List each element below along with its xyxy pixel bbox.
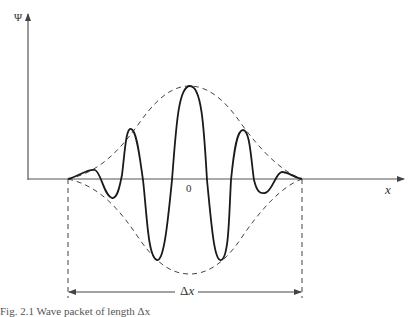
width-variable: x (188, 283, 194, 298)
x-axis-label: x (385, 182, 391, 198)
upper-envelope (68, 86, 302, 179)
wave-curve (68, 86, 302, 260)
y-axis-label: Ψ (14, 11, 22, 23)
packet-width-label: Δx (178, 283, 196, 299)
figure-caption: Fig. 2.1 Wave packet of length Δx (0, 305, 150, 317)
lower-envelope (68, 179, 302, 274)
origin-label: 0 (186, 182, 192, 194)
